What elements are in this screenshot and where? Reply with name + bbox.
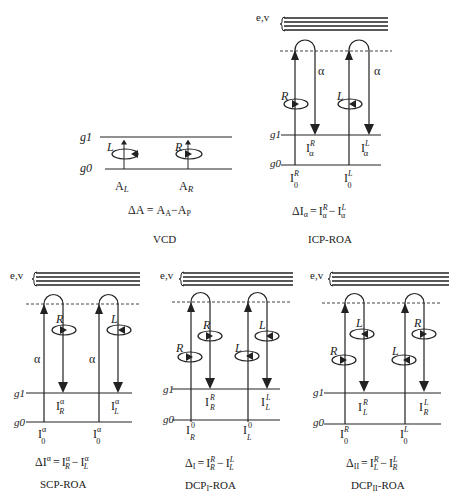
up-arrowhead-icon [401, 303, 409, 313]
dcp2-incident-pol-right: L [391, 344, 399, 358]
polarization-right-arrowhead-icon [340, 356, 347, 364]
dcp2-band-label: e,v [310, 269, 324, 281]
dcp2-g0-label: g0 [313, 416, 325, 428]
dcp1-scattered-pol-left: R [202, 318, 211, 332]
up-arrowhead-icon [244, 302, 252, 312]
scp-g0-label: g0 [14, 416, 26, 428]
vcd-panel: g1 g0 L R AL AR ΔA =AA−AP VCD [80, 130, 232, 245]
vcd-pol-left: L [106, 140, 114, 154]
vcd-g0-label: g0 [80, 161, 92, 175]
band-brace [280, 17, 285, 31]
scp-pol-right: L [110, 312, 118, 326]
dcp1-equation: ΔI=IRR−ILL [185, 455, 235, 472]
dcp1-incident-pol-left: R [175, 341, 184, 355]
icp-band-label: e,v [256, 11, 270, 23]
down-arrowhead-icon [359, 381, 369, 392]
down-arrowhead-icon [205, 378, 215, 389]
dcp1-out-label-right: ILL [261, 393, 271, 412]
down-arrowhead-icon [310, 124, 320, 135]
dcp1-title: DCPI-ROA [185, 479, 236, 493]
scp-alpha-right: α [89, 352, 96, 366]
dcp1-incident-pol-right: L [234, 341, 242, 355]
up-arrowhead-icon [341, 303, 349, 313]
polarization-left-arrowhead-icon [246, 352, 253, 360]
scp-roa-panel: e,v α R α L g1 g0 IαR IαL Iα0 Iα0 ΔIα=Iα… [10, 269, 140, 490]
dcp2-scattered-pol-left: L [355, 316, 363, 330]
vcd-g1-label: g1 [80, 130, 92, 144]
dcp2-g1-label: g1 [313, 386, 324, 398]
dcp1-band-label: e,v [160, 269, 174, 281]
scp-in-label-left: Iα0 [38, 425, 47, 446]
dcp1-g0-label: g0 [163, 413, 175, 425]
polarization-left-arrowhead-icon [403, 356, 410, 364]
vcd-pol-right: R [174, 140, 183, 154]
dcp2-in-label-right: IL0 [400, 425, 409, 446]
down-arrowhead-icon [58, 382, 68, 393]
icp-pol-left: R [280, 89, 289, 103]
icp-in-label-right: IL0 [344, 169, 353, 190]
dcp2-equation: ΔII=IRL−ILR [346, 455, 398, 472]
up-arrowhead-icon [40, 304, 48, 314]
down-arrowhead-icon [364, 124, 374, 135]
band-brace [328, 272, 333, 286]
vcd-title: VCD [153, 233, 176, 245]
dcp2-scattered-pol-right: R [413, 316, 422, 330]
polarization-left-arrowhead-icon [349, 100, 356, 108]
icp-alpha-right: α [374, 64, 381, 78]
scp-out-label-right: IαL [111, 397, 120, 416]
dcp1-scattered-pol-right: L [258, 318, 266, 332]
scp-equation: ΔIα=IαR−IαL [35, 454, 90, 471]
icp-out-label-right: ILα [361, 139, 370, 158]
dcp2-in-label-left: IR0 [340, 425, 349, 446]
icp-out-label-left: IRα [306, 139, 315, 158]
up-arrowhead-icon [187, 302, 195, 312]
scp-g1-label: g1 [14, 387, 25, 399]
vcd-a-left: AL [115, 179, 129, 194]
scp-in-label-right: Iα0 [93, 425, 102, 446]
icp-equation: ΔIα=IRα−ILα [292, 203, 347, 220]
icp-g0-label: g0 [270, 157, 282, 169]
dcp2-roa-panel: e,v L R R L g1 g0 IRL ILR IR0 IL0 [310, 269, 449, 493]
roa-diagram: g1 g0 L R AL AR ΔA =AA−AP VCD e,v α [0, 0, 461, 500]
down-arrowhead-icon [419, 381, 429, 392]
scp-title: SCP-ROA [40, 478, 87, 490]
dcp2-incident-pol-left: R [329, 344, 338, 358]
dcp1-in-label-right: I0L [243, 421, 252, 442]
up-arrowhead-icon [95, 304, 103, 314]
dcp2-title: DCPII-ROA [351, 479, 405, 493]
scp-out-label-left: IαR [56, 397, 65, 416]
scp-band-label: e,v [10, 269, 24, 281]
icp-pol-right: L [336, 89, 344, 103]
icp-title: ICP-ROA [308, 233, 352, 245]
scp-alpha-left: α [34, 352, 41, 366]
icp-in-label-left: IR0 [290, 169, 299, 190]
vcd-equation: ΔA =AA−AP [128, 203, 191, 218]
dcp1-out-label-left: IRR [205, 393, 215, 412]
vcd-a-right: AR [179, 179, 194, 194]
dcp1-in-label-left: I0R [186, 421, 195, 442]
polarization-left-arrowhead-icon [118, 326, 125, 334]
icp-alpha-left: α [318, 64, 325, 78]
band-brace [32, 272, 37, 286]
scp-pol-left: R [55, 312, 64, 326]
dcp1-roa-panel: e,v R R L L g1 g0 IRR ILL I0R I0L [160, 269, 293, 493]
down-arrowhead-icon [113, 382, 123, 393]
icp-roa-panel: e,v α R α L g1 g0 IRα ILα IR0 IL0 ΔI [256, 11, 392, 245]
dcp2-out-label-right: ILR [419, 398, 429, 417]
dcp2-out-label-left: IRL [358, 398, 368, 417]
polarization-right-arrowhead-icon [186, 353, 193, 361]
icp-g1-label: g1 [270, 128, 281, 140]
band-brace [179, 272, 184, 286]
down-arrowhead-icon [262, 378, 272, 389]
